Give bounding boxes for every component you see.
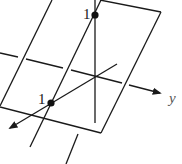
- bottom-line-segment: [66, 134, 78, 164]
- plane-bottom-edge: [0, 107, 101, 133]
- point-label-vertical: 1: [83, 6, 91, 22]
- plane-right-edge: [101, 12, 161, 133]
- plane-top-edge: [100, 0, 161, 12]
- point-dot-vertical: [91, 11, 98, 18]
- diagram-canvas: y 1 1: [0, 0, 182, 164]
- x-axis: [10, 64, 117, 128]
- y-axis-label: y: [167, 90, 176, 106]
- point-label-x: 1: [38, 91, 46, 107]
- plane: [0, 0, 161, 133]
- y-axis: [0, 53, 160, 93]
- point-dot-x: [47, 99, 54, 106]
